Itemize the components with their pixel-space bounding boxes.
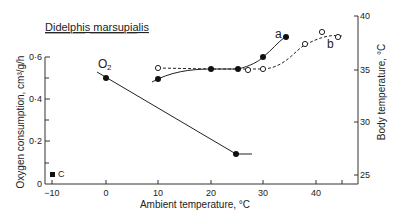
y-tick-0.4: 0·4 [29,94,42,104]
x-tick-20: 20 [206,188,216,198]
series-c: C [50,169,65,179]
y-tick-0: 0 [37,179,42,189]
y-tick-0.2: 0·2 [29,136,42,146]
series-o2: O 2 [97,57,252,157]
x-tick-40: 40 [311,188,321,198]
x-axis-title: Ambient temperature, °C [140,199,250,210]
chart-canvas: Didelphis marsupialis 0 0·2 0·4 0·6 Oxyg… [0,0,394,219]
x-tick-30: 30 [258,188,268,198]
x-tick-0: 0 [103,188,108,198]
chart-title: Didelphis marsupialis [45,21,149,33]
y2-axis-title: Body temperature, °C [376,44,387,140]
y2-tick-30: 30 [360,117,370,127]
y2-tick-25: 25 [360,170,370,180]
b-label: b [327,37,334,51]
y-tick-0.6: 0·6 [29,52,42,62]
series-a: a [152,27,289,82]
y2-tick-40: 40 [360,11,370,21]
x-tick--10: −10 [44,188,59,198]
left-y-axis: 0 0·2 0·4 0·6 Oxygen consumption, cm³/g/… [15,52,50,189]
a-label: a [275,27,282,41]
y-axis-title: Oxygen consumption, cm³/g/h [15,56,26,189]
o2-subscript: 2 [107,63,112,72]
c-label: C [58,169,65,179]
o2-label: O [98,57,107,71]
x-axis: −10 0 10 20 30 40 Ambient temperature, °… [44,180,358,210]
x-tick-10: 10 [153,188,163,198]
right-y-axis: 40 35 30 25 Body temperature, °C [354,11,387,184]
y2-tick-35: 35 [360,65,370,75]
